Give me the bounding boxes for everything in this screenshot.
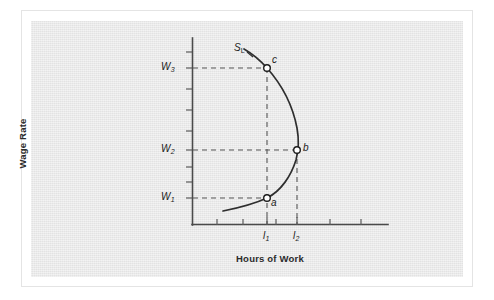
y-tick-label-w1: W1 bbox=[161, 191, 175, 203]
y-axis-title: Wage Rate bbox=[17, 104, 28, 184]
y-tick-label-w3: W3 bbox=[161, 61, 175, 73]
curve-name-label: SL bbox=[234, 42, 245, 54]
y-tick-label-w3-sub: 3 bbox=[170, 66, 174, 73]
y-tick-label-w2-sub: 2 bbox=[170, 148, 174, 155]
figure-root: Wage Rate Hours of Work W3 W2 W1 l1 l2 S… bbox=[0, 0, 494, 300]
x-axis-title: Hours of Work bbox=[200, 253, 340, 264]
point-label-c: c bbox=[272, 54, 277, 65]
y-tick-label-w1-sub: 1 bbox=[170, 196, 174, 203]
point-label-b: b bbox=[303, 142, 309, 153]
point-label-a: a bbox=[271, 197, 277, 208]
curve-name-sub: L bbox=[241, 47, 245, 54]
x-tick-label-l2-sub: 2 bbox=[295, 235, 299, 242]
y-tick-label-w2: W2 bbox=[161, 143, 175, 155]
chart-plate-background bbox=[31, 21, 463, 277]
x-tick-label-l2: l2 bbox=[293, 230, 299, 242]
curve-name-base: S bbox=[234, 42, 241, 53]
x-tick-label-l1-sub: 1 bbox=[265, 235, 269, 242]
x-tick-label-l1: l1 bbox=[263, 230, 269, 242]
